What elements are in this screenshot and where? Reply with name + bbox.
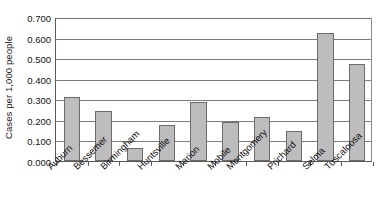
y-tick-label: 0.600 <box>27 33 51 44</box>
y-tick-label: 0.300 <box>27 95 51 106</box>
y-axis-title: Cases per 1,000 people <box>0 0 18 175</box>
y-axis-title-text: Cases per 1,000 people <box>4 36 15 139</box>
y-tick-label: 0.400 <box>27 74 51 85</box>
y-axis-tick-labels: 0.7000.6000.5000.4000.3000.2000.1000.000 <box>18 18 54 162</box>
bar-chart: Cases per 1,000 people 0.7000.6000.5000.… <box>0 0 381 223</box>
x-axis-category-labels: AuburnBessemerBirminghamHuntsvilleMarion… <box>55 164 381 223</box>
bar <box>317 33 333 161</box>
y-tick-label: 0.100 <box>27 136 51 147</box>
y-tick-label: 0.200 <box>27 115 51 126</box>
y-tick-label: 0.500 <box>27 54 51 65</box>
y-tick-label: 0.700 <box>27 13 51 24</box>
